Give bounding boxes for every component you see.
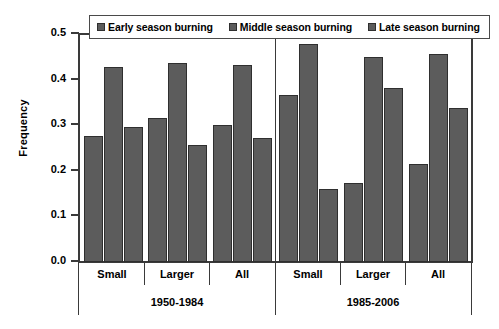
- bar-chart: Frequency 0.50.40.30.20.10.0 SmallLarger…: [0, 0, 499, 329]
- x-axis-category-label: All: [398, 268, 478, 280]
- y-axis-tick: [71, 260, 79, 262]
- bar: [168, 63, 187, 262]
- bar: [279, 95, 298, 262]
- bar: [344, 183, 363, 262]
- bar: [364, 57, 383, 262]
- bar: [449, 108, 468, 262]
- bar: [253, 138, 272, 262]
- y-axis-tick-label: 0.2: [6, 163, 66, 175]
- y-axis-tick: [71, 123, 79, 125]
- legend-item-middle: Middle season burning: [229, 21, 352, 33]
- bar: [84, 136, 103, 262]
- legend-swatch-icon: [368, 23, 376, 31]
- legend-item-late: Late season burning: [368, 21, 480, 33]
- plot-right-border: [471, 33, 473, 263]
- bar: [148, 118, 167, 262]
- legend-label: Middle season burning: [240, 21, 352, 33]
- legend-swatch-icon: [229, 23, 237, 31]
- legend-label: Late season burning: [379, 21, 480, 33]
- y-axis-tick: [71, 214, 79, 216]
- bar: [104, 67, 123, 262]
- y-axis-tick: [71, 32, 79, 34]
- y-axis-tick-label: 0.4: [6, 72, 66, 84]
- bar: [124, 127, 143, 262]
- y-axis-tick: [71, 78, 79, 80]
- legend-label: Early season burning: [108, 21, 213, 33]
- bar: [213, 125, 232, 262]
- legend: Early season burning Middle season burni…: [89, 15, 490, 39]
- y-axis-tick-label: 0.5: [6, 26, 66, 38]
- bar: [233, 65, 252, 262]
- y-axis-tick: [71, 169, 79, 171]
- bar: [188, 145, 207, 262]
- y-axis-tick-label: 0.1: [6, 208, 66, 220]
- y-axis-tick-label: 0.3: [6, 117, 66, 129]
- legend-item-early: Early season burning: [97, 21, 213, 33]
- legend-swatch-icon: [97, 23, 105, 31]
- x-axis-period-label: 1985-2006: [318, 296, 428, 308]
- bar: [429, 54, 448, 262]
- bar: [299, 44, 318, 262]
- bar: [319, 189, 338, 262]
- y-axis-tick-label: 0.0: [6, 254, 66, 266]
- bar: [409, 164, 428, 262]
- x-axis-period-label: 1950-1984: [122, 296, 232, 308]
- bar: [384, 88, 403, 262]
